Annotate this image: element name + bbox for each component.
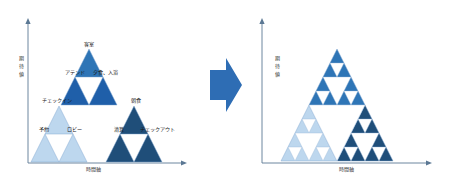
x-axis-arrowhead	[181, 160, 187, 165]
left-panel: 期 待 値 時間軸 客室	[0, 0, 200, 184]
tri-reserve	[31, 134, 59, 162]
label-guestroom: 客室	[84, 41, 94, 48]
y-axis-label-char-1-right: 期	[275, 55, 280, 62]
right-fractal-fills	[281, 49, 393, 161]
x-axis-label-right: 時間軸	[339, 166, 354, 173]
right-arrow-icon	[210, 58, 242, 112]
tri-settle	[106, 134, 134, 162]
x-axis-label: 時間軸	[86, 166, 101, 173]
label-lobby: ロビー	[67, 126, 82, 132]
y-axis-arrowhead	[25, 18, 30, 24]
tri-lobby	[59, 134, 87, 162]
arrow-svg	[200, 52, 248, 118]
right-panel: 期 待 値 時間軸	[248, 0, 450, 184]
label-breakfast: 朝食	[131, 97, 141, 104]
label-checkout: チェックアウト	[140, 126, 175, 133]
label-dinner: 夕食、入浴	[93, 69, 118, 76]
y-axis-label-char-2-right: 待	[275, 63, 280, 70]
diagram-canvas: 期 待 値 時間軸 客室	[0, 0, 450, 184]
label-attend: アテンド	[65, 69, 85, 76]
y-axis-label-char-2: 待	[19, 63, 24, 70]
tri-dinner	[89, 77, 117, 105]
y-axis-arrowhead-right	[259, 18, 264, 24]
y-axis-label-char-3: 値	[19, 71, 24, 78]
left-panel-svg: 期 待 値 時間軸 客室	[0, 0, 200, 184]
label-settle: 清算	[114, 126, 124, 133]
label-checkin: チェックイン	[42, 97, 72, 104]
transform-arrow	[200, 52, 248, 118]
right-panel-svg: 期 待 値 時間軸	[248, 0, 450, 184]
tri-checkout	[134, 134, 162, 162]
x-axis-arrowhead-right	[426, 160, 432, 165]
y-axis-label-char-3-right: 値	[275, 71, 280, 78]
left-triangle-fills	[31, 49, 162, 162]
label-reserve: 予約	[39, 126, 49, 133]
y-axis-label-char-1: 期	[19, 55, 24, 62]
